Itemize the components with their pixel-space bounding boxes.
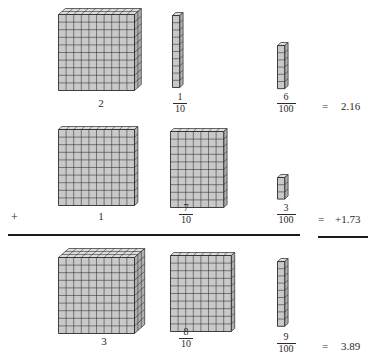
place-label-ones-row2: 1	[58, 211, 144, 222]
fraction-denominator: 100	[277, 103, 296, 115]
figure-canvas: 2 1 10 6 100 = 2.16 + 1 7 10 3 100 =	[0, 0, 375, 364]
fraction-denominator: 10	[179, 214, 193, 226]
place-label-ones-row1: 2	[58, 98, 144, 109]
base-ten-block-tenths-row3	[170, 252, 236, 333]
row-equals-sign-row3: =	[322, 341, 328, 352]
base-ten-block-hundredths-row1	[277, 42, 290, 90]
base-ten-block-ones-row1	[58, 8, 143, 92]
place-label-tenths-row1: 1 10	[158, 92, 202, 114]
base-ten-block-hundredths-row2	[277, 174, 290, 201]
base-ten-block-hundredths-row3	[277, 258, 290, 328]
fraction-numerator: 1	[173, 92, 187, 103]
fraction-numerator: 7	[179, 203, 193, 214]
base-ten-block-tenths-row2	[170, 128, 229, 209]
place-label-tenths-row2: 7 10	[163, 203, 209, 225]
whole-number-value: 3	[101, 335, 107, 347]
fraction-one-tenth: 1 10	[173, 92, 187, 114]
row-result-row1: 2.16	[341, 101, 360, 112]
fraction-denominator: 10	[179, 338, 193, 350]
fraction-numerator: 9	[277, 332, 296, 343]
fraction-eight-tenths: 8 10	[179, 327, 193, 349]
place-label-hundredths-row1: 6 100	[258, 92, 314, 114]
fraction-denominator: 100	[277, 343, 296, 355]
fraction-three-hundredths: 3 100	[277, 203, 296, 225]
row-equals-sign-row1: =	[322, 101, 328, 112]
base-ten-block-ones-row3	[58, 248, 146, 335]
sum-rule-result	[318, 236, 368, 238]
row-equals-sign-row2: =	[318, 214, 324, 225]
fraction-seven-tenths: 7 10	[179, 203, 193, 225]
place-label-hundredths-row3: 9 100	[258, 332, 314, 354]
row-result-row3: 3.89	[341, 341, 360, 352]
sum-rule-main	[8, 234, 300, 236]
whole-number-value: 1	[98, 210, 104, 222]
fraction-nine-hundredths: 9 100	[277, 332, 296, 354]
base-ten-block-tenths-row1	[172, 12, 185, 89]
fraction-denominator: 100	[277, 214, 296, 226]
plus-operator: +	[11, 211, 18, 223]
fraction-numerator: 8	[179, 327, 193, 338]
row-result-row2: +1.73	[335, 214, 360, 225]
place-label-tenths-row3: 8 10	[163, 327, 209, 349]
whole-number-value: 2	[98, 97, 104, 109]
base-ten-block-ones-row2	[58, 126, 139, 207]
place-label-hundredths-row2: 3 100	[258, 203, 314, 225]
fraction-numerator: 3	[277, 203, 296, 214]
fraction-six-hundredths: 6 100	[277, 92, 296, 114]
fraction-denominator: 10	[173, 103, 187, 115]
place-label-ones-row3: 3	[58, 336, 150, 347]
fraction-numerator: 6	[277, 92, 296, 103]
